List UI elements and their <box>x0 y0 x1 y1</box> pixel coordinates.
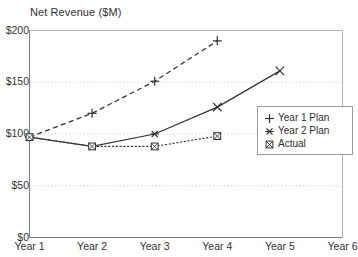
data-point-marker <box>214 133 221 140</box>
boxed-x-marker <box>263 137 276 150</box>
x-axis-tick-label: Year 3 <box>140 240 170 252</box>
data-point-marker <box>151 143 158 150</box>
data-point-marker <box>88 109 97 118</box>
series-year-1-plan <box>25 36 222 141</box>
legend-item[interactable]: Year 2 Plan <box>263 124 346 137</box>
legend-item-label: Year 2 Plan <box>278 124 329 137</box>
legend-item-label: Actual <box>278 137 306 150</box>
x-axis-tick-label: Year 2 <box>77 240 107 252</box>
series-actual <box>26 133 221 150</box>
x-axis-tick-label: Year 6 <box>328 240 358 252</box>
data-series-layer <box>25 36 284 149</box>
x-axis-tick-labels: Year 1Year 2Year 3Year 4Year 5Year 6 <box>0 239 354 257</box>
data-point-marker <box>26 134 33 141</box>
series-line <box>30 41 218 137</box>
data-point-marker <box>213 103 221 111</box>
x-axis-tick-label: Year 4 <box>202 240 232 252</box>
data-point-marker <box>89 143 96 150</box>
legend-item-label: Year 1 Plan <box>278 111 329 124</box>
data-point-marker <box>150 77 159 86</box>
legend-item[interactable]: Year 1 Plan <box>263 111 346 124</box>
plus-marker <box>263 111 276 124</box>
data-point-marker <box>151 131 159 137</box>
data-point-marker <box>213 36 222 45</box>
chart-legend: Year 1 PlanYear 2 PlanActual <box>257 106 353 155</box>
x-axis-tick-label: Year 5 <box>265 240 295 252</box>
asterisk-marker <box>263 124 276 137</box>
x-axis-tick-label: Year 1 <box>15 240 45 252</box>
data-point-marker <box>276 67 284 75</box>
legend-item[interactable]: Actual <box>263 137 346 150</box>
